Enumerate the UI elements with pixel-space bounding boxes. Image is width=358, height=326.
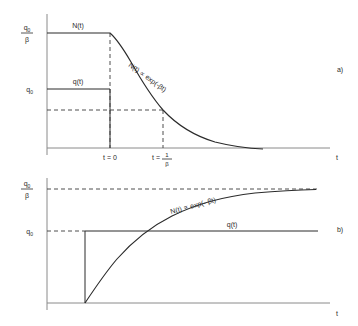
panel-a-tag: a): [337, 66, 343, 74]
svg-text:q0: q0: [24, 180, 31, 189]
panel-a-ylabel-q0-over-beta: q0 β: [21, 24, 33, 44]
panel-a-plateau-label: N(t): [72, 22, 84, 30]
panel-a: q0 β q0 N(t) q(t) N(t) ∝ exp(-βt) t = 0 …: [21, 14, 343, 167]
panel-b-q-step: [85, 231, 318, 303]
panel-a-xtick-tau-den: β: [165, 161, 169, 167]
panel-a-xtick-t0: t = 0: [103, 154, 117, 161]
panel-a-ytop-sub: 0: [28, 27, 31, 33]
two-panel-exponential-figure: q0 β q0 N(t) q(t) N(t) ∝ exp(-βt) t = 0 …: [0, 0, 358, 326]
panel-a-xtick-tau-prefix: t =: [152, 154, 160, 161]
panel-a-x-axis-label: t: [336, 154, 338, 161]
svg-text:q0: q0: [24, 24, 31, 33]
panel-a-ytop-den: β: [25, 36, 29, 44]
panel-a-ylabel-q0: q0: [26, 86, 33, 95]
panel-b-ylabel-q0: q0: [26, 228, 33, 237]
panel-a-xtick-tau: t = 1 β: [152, 152, 172, 167]
panel-b-ytop-sub: 0: [28, 183, 31, 189]
panel-b-tag: b): [337, 226, 343, 234]
panel-b-curve-annotation: N(t) ∝ exp(- βt): [169, 196, 216, 216]
panel-a-q-step: [47, 89, 110, 148]
panel-a-xtick-tau-num: 1: [165, 152, 169, 158]
panel-a-step-label: q(t): [73, 78, 84, 86]
panel-b: q0 β q0 N(t) ∝ exp(- βt) q(t) t b): [21, 178, 343, 317]
panel-b-x-axis-label: t: [336, 310, 338, 317]
panel-b-ylabel-q0-over-beta: q0 β: [21, 180, 33, 200]
panel-a-N-curve: [47, 33, 263, 149]
panel-b-step-label: q(t): [227, 221, 238, 229]
panel-b-ytop-den: β: [25, 192, 29, 200]
